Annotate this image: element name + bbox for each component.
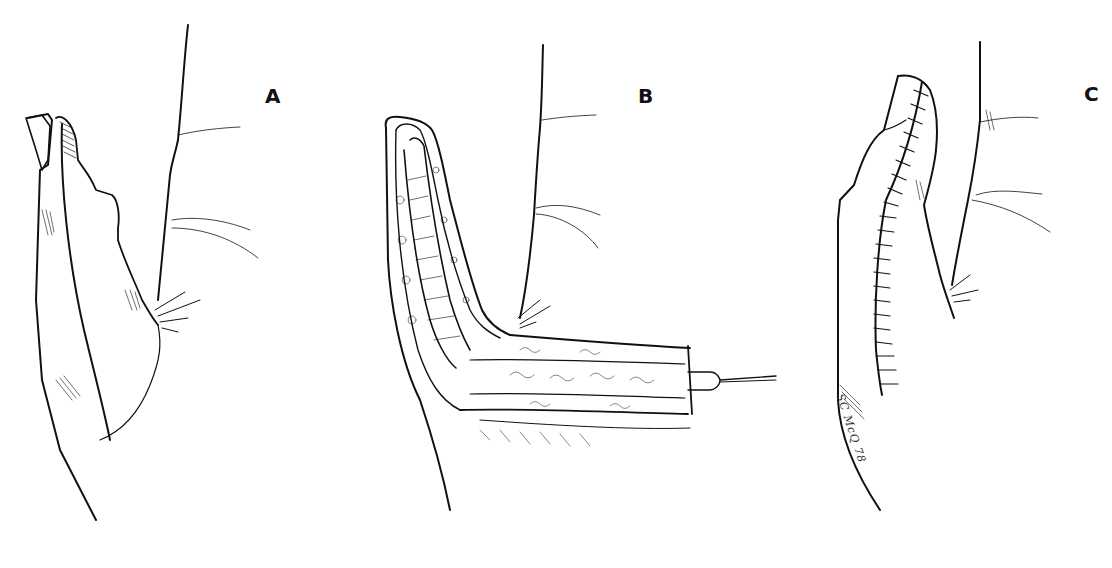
panel-b: B [370, 0, 790, 568]
panel-label-b: B [638, 86, 653, 106]
panel-c-drawing [810, 0, 1112, 568]
panel-c: C SC McQ 78 [810, 0, 1112, 568]
panel-a: A [0, 0, 300, 568]
panel-label-c: C [1084, 84, 1099, 104]
panel-a-drawing [0, 0, 300, 568]
panel-b-drawing [370, 0, 790, 568]
panel-label-a: A [265, 86, 280, 106]
surgical-illustration: A [0, 0, 1112, 568]
